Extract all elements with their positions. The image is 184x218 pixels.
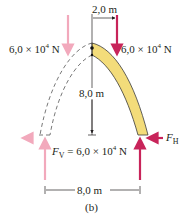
- right-force-label: 6,0 × 104 N: [121, 44, 172, 55]
- fv-label: FV = 6,0 × 104 N: [52, 146, 127, 160]
- height-label: 8,0 m: [78, 88, 105, 99]
- base-width-label: 8,0 m: [77, 185, 102, 196]
- left-force-label: 6,0 × 104 N: [9, 44, 60, 55]
- top-width-label: 2,0 m: [92, 4, 117, 15]
- fh-label: FH: [166, 132, 179, 146]
- figure-caption: (b): [85, 202, 98, 213]
- hinge-dot: [90, 46, 94, 50]
